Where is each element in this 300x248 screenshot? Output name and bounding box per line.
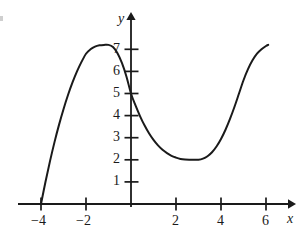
- plot-area: [0, 0, 300, 248]
- x-tick-label--4: −4: [31, 214, 46, 228]
- y-tick-label-2: 2: [113, 152, 120, 166]
- y-tick-label-6: 6: [113, 64, 120, 78]
- x-tick-label-2: 2: [172, 214, 179, 228]
- figure-canvas: 7 6 5 4 3 2 1 −4 −2 2 4 6 y x: [0, 0, 300, 248]
- x-tick-label-6: 6: [262, 214, 269, 228]
- y-tick-label-4: 4: [113, 108, 120, 122]
- y-tick-label-7: 7: [113, 42, 120, 56]
- y-axis-arrowhead: [126, 12, 135, 20]
- data-curve: [41, 45, 268, 204]
- axes-group: [18, 12, 296, 211]
- y-axis-label: y: [118, 12, 124, 26]
- y-tick-label-3: 3: [113, 130, 120, 144]
- y-tick-label-5: 5: [113, 86, 120, 100]
- x-axis-arrowhead: [288, 199, 296, 208]
- y-tick-label-1: 1: [113, 174, 120, 188]
- x-tick-label--2: −2: [76, 214, 91, 228]
- x-axis-label: x: [287, 212, 293, 226]
- x-tick-label-4: 4: [217, 214, 224, 228]
